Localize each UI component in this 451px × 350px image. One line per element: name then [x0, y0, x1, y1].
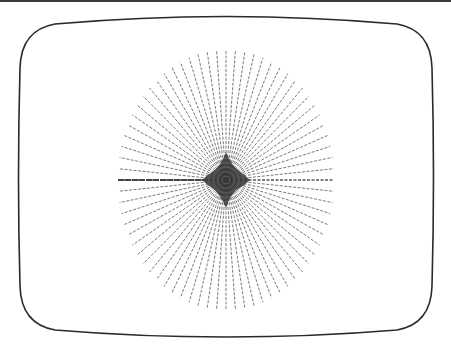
- starburst-ray: [226, 180, 324, 235]
- starburst-ray: [128, 125, 226, 180]
- starburst-ray: [226, 125, 324, 180]
- starburst-ray: [226, 180, 272, 298]
- crt-screen-illustration: [0, 0, 451, 350]
- starburst-ray: [226, 180, 254, 306]
- starburst-core-blob: [202, 152, 250, 208]
- starburst-ray: [226, 62, 272, 180]
- starburst-ray: [189, 58, 226, 180]
- starburst-ray: [189, 180, 226, 302]
- starburst-ray: [198, 54, 226, 180]
- starburst-ray: [180, 180, 226, 298]
- starburst-ray: [226, 180, 263, 302]
- starburst-ray: [180, 62, 226, 180]
- starburst-ray: [226, 58, 263, 180]
- starburst-ray: [128, 180, 226, 235]
